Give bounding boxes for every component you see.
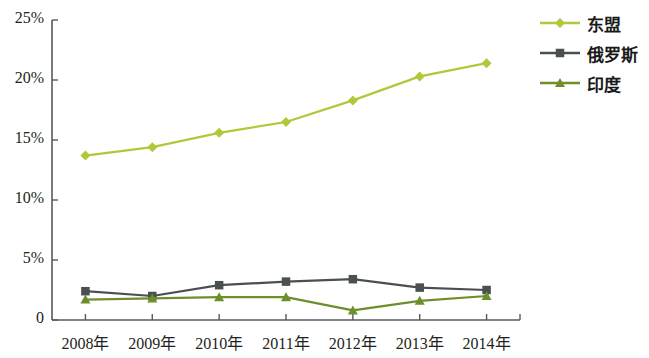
data-point-marker	[282, 277, 291, 286]
legend-item-印度[interactable]: 印度	[538, 68, 638, 98]
data-point-marker	[482, 58, 492, 68]
y-axis-tick-label: 25%	[0, 9, 44, 27]
data-point-marker	[214, 128, 224, 138]
legend-swatch-icon	[538, 14, 582, 32]
y-axis-tick-label: 5%	[0, 249, 44, 267]
data-point-marker	[348, 95, 358, 105]
series-line	[85, 63, 486, 155]
legend-label: 印度	[587, 71, 621, 96]
y-axis-tick-label: 10%	[0, 189, 44, 207]
y-axis-tick-label: 0	[0, 309, 44, 327]
legend-swatch-icon	[538, 44, 582, 62]
line-chart: 05%10%15%20%25% 2008年2009年2010年2011年2012…	[0, 0, 649, 358]
data-point-marker	[215, 281, 224, 290]
legend-item-东盟[interactable]: 东盟	[538, 8, 638, 38]
data-point-marker	[415, 283, 424, 292]
data-point-marker	[281, 117, 291, 127]
y-axis-tick-label: 15%	[0, 129, 44, 147]
data-point-marker	[349, 275, 358, 284]
legend-item-俄罗斯[interactable]: 俄罗斯	[538, 38, 638, 68]
legend-swatch-icon	[538, 74, 582, 92]
data-point-marker	[555, 18, 565, 28]
data-point-marker	[81, 287, 90, 296]
data-point-marker	[556, 49, 565, 58]
x-axis-tick-label: 2014年	[447, 330, 527, 354]
data-point-marker	[80, 151, 90, 161]
chart-legend: 东盟俄罗斯印度	[538, 8, 638, 98]
data-point-marker	[147, 142, 157, 152]
legend-label: 东盟	[587, 11, 621, 36]
y-axis-tick-label: 20%	[0, 69, 44, 87]
legend-label: 俄罗斯	[587, 41, 638, 66]
series-0	[80, 58, 491, 160]
data-point-marker	[415, 71, 425, 81]
